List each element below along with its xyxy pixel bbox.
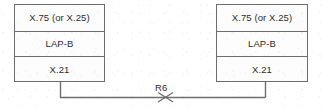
link-label-r6: R6 [155,82,167,93]
diagram-canvas: X.75 (or X.25) LAP-B X.21 X.75 (or X.25)… [0,0,322,108]
